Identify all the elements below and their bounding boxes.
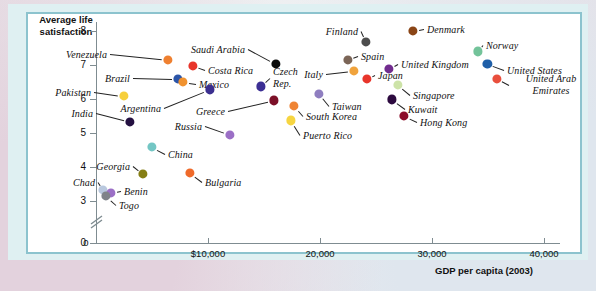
label-leader-line: [409, 119, 417, 123]
point-label-georgia: Georgia: [96, 161, 130, 172]
point-label-hong-kong: Hong Kong: [420, 117, 467, 128]
point-label-greece: Greece: [196, 106, 225, 117]
point-label-saudi-arabia: Saudi Arabia: [191, 44, 245, 55]
y-tick-label: 8: [70, 25, 86, 36]
label-leader-line: [326, 71, 348, 75]
label-leader-line: [402, 89, 410, 96]
data-point-czech-rep-[interactable]: [256, 82, 265, 91]
y-axis-break-icon: [89, 212, 105, 230]
y-tick-label: 3: [70, 195, 86, 206]
data-point-georgia[interactable]: [138, 170, 147, 179]
data-point-japan[interactable]: [362, 74, 371, 83]
point-label-argentina: Argentina: [120, 103, 161, 114]
y-tick-label: 4: [70, 161, 86, 172]
data-point-china[interactable]: [147, 143, 156, 152]
y-tick: [90, 201, 96, 202]
label-leader-line: [157, 150, 165, 155]
point-label-united-arab-emirates: United ArabEmirates: [512, 73, 590, 97]
label-leader-line: [502, 82, 509, 86]
label-leader-line: [110, 200, 116, 205]
data-point-puerto-rico[interactable]: [286, 116, 295, 125]
label-leader-line: [298, 111, 303, 117]
y-tick-label: 7: [70, 59, 86, 70]
x-tick-label: 20,000: [305, 248, 334, 259]
point-label-south-korea: South Korea: [306, 111, 357, 122]
y-tick: [90, 243, 96, 244]
label-leader-line: [110, 54, 162, 60]
data-point-mexico[interactable]: [178, 77, 187, 86]
point-label-denmark: Denmark: [427, 24, 465, 35]
label-leader-line: [396, 103, 405, 110]
data-point-bulgaria[interactable]: [185, 169, 194, 178]
point-label-pakistan: Pakistan: [55, 87, 91, 98]
data-point-united-states[interactable]: [483, 59, 492, 68]
point-label-benin: Benin: [124, 186, 148, 197]
label-leader-line: [361, 31, 364, 36]
data-point-pakistan[interactable]: [119, 92, 128, 101]
label-leader-line: [198, 68, 205, 71]
point-label-china: China: [168, 149, 193, 160]
y-tick: [90, 31, 96, 32]
data-point-venezuela[interactable]: [163, 55, 172, 64]
label-leader-line: [228, 102, 268, 112]
x-axis-title: GDP per capita (2003): [435, 265, 533, 276]
x-tick: [432, 238, 433, 243]
data-point-spain[interactable]: [343, 55, 352, 64]
label-leader-line: [205, 126, 224, 134]
data-point-finland[interactable]: [361, 37, 370, 46]
point-label-togo: Togo: [119, 200, 139, 211]
data-point-united-arab-emirates[interactable]: [492, 74, 501, 83]
y-tick: [90, 99, 96, 100]
label-leader-line: [248, 49, 271, 62]
label-leader-line: [117, 191, 121, 193]
data-point-russia[interactable]: [225, 130, 234, 139]
x-tick: [208, 238, 209, 243]
y-tick: [90, 133, 96, 134]
x-tick: [544, 238, 545, 243]
data-point-costa-rica[interactable]: [188, 61, 197, 70]
label-leader-line: [419, 29, 424, 31]
data-point-singapore[interactable]: [393, 80, 402, 89]
data-point-italy[interactable]: [350, 66, 359, 75]
data-point-india[interactable]: [126, 117, 135, 126]
x-tick-label: 40,000: [529, 248, 558, 259]
data-point-hong-kong[interactable]: [399, 111, 408, 120]
y-tick-label: 5: [70, 127, 86, 138]
data-point-togo[interactable]: [101, 192, 110, 201]
point-label-finland: Finland: [326, 26, 358, 37]
point-label-costa-rica: Costa Rica: [208, 65, 253, 76]
label-leader-line: [96, 113, 124, 121]
data-point-south-korea[interactable]: [290, 102, 299, 111]
data-point-argentina[interactable]: [205, 85, 214, 94]
label-leader-line: [195, 177, 203, 183]
label-leader-line: [94, 92, 118, 96]
point-label-kuwait: Kuwait: [408, 104, 438, 115]
x-axis-line: [96, 243, 560, 244]
x-tick-label: $10,000: [191, 248, 225, 259]
data-point-greece[interactable]: [269, 96, 278, 105]
data-point-norway[interactable]: [473, 47, 482, 56]
point-label-puerto-rico: Puerto Rico: [303, 130, 352, 141]
label-leader-line: [322, 98, 329, 106]
label-leader-line: [372, 75, 375, 77]
data-point-denmark[interactable]: [408, 26, 417, 35]
point-label-russia: Russia: [175, 121, 202, 132]
label-leader-line: [133, 166, 139, 171]
data-point-taiwan[interactable]: [314, 89, 323, 98]
point-label-brazil: Brazil: [105, 73, 130, 84]
x-tick-label: 30,000: [417, 248, 446, 259]
label-leader-line: [294, 126, 301, 136]
label-leader-line: [265, 78, 270, 83]
data-point-kuwait[interactable]: [387, 95, 396, 104]
point-label-india: India: [71, 108, 93, 119]
point-label-singapore: Singapore: [413, 90, 455, 101]
y-tick: [90, 167, 96, 168]
point-label-norway: Norway: [486, 40, 518, 51]
label-leader-line: [481, 45, 483, 47]
y-axis-title: Average life satisfaction: [30, 14, 102, 37]
y-tick: [90, 65, 96, 66]
point-label-italy: Italy: [304, 69, 323, 80]
point-label-venezuela: Venezuela: [66, 49, 107, 60]
label-leader-line: [354, 56, 359, 59]
scatter-plot: Average life satisfaction GDP per capita…: [0, 0, 596, 291]
